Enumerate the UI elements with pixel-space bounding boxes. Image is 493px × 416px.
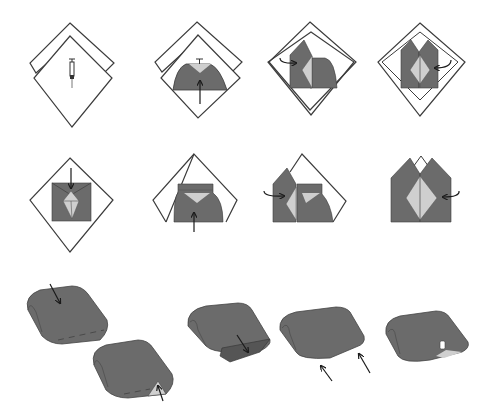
step-10-rolled-tuck-corner (93, 340, 173, 401)
step-3-fold-left-in (268, 22, 356, 115)
step-13-rolled-finished (386, 311, 469, 361)
step-4-fold-right-in (378, 23, 465, 116)
arrow-up-left (321, 366, 332, 381)
step-9-rolled-press-down (27, 284, 107, 344)
step-11-rolled-fold-flap (188, 303, 270, 362)
step-12-rolled-tuck-sides (280, 307, 370, 381)
step-7-fold-left-in (264, 154, 346, 222)
step-5-fold-top-down (30, 158, 113, 252)
rolled-napkin (280, 307, 365, 358)
step-2-fold-bottom-up (155, 22, 242, 118)
folding-diagram (0, 0, 493, 416)
step-1-two-squares-with-syringe (30, 23, 114, 127)
tuck-slot (440, 341, 445, 349)
arrow-up-left (359, 354, 370, 373)
right-flap (297, 184, 333, 222)
rolled-napkin (27, 286, 107, 344)
step-6-fold-bottom-up (153, 154, 237, 232)
step-8-fold-right-in (391, 156, 459, 222)
